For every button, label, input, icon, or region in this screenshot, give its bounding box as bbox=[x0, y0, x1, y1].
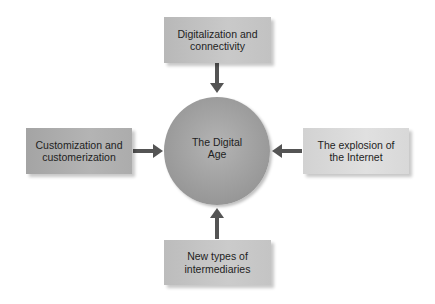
node-label: connectivity bbox=[178, 40, 258, 53]
arrow-right-icon bbox=[133, 144, 163, 158]
node-label: customerization bbox=[36, 151, 123, 164]
node-digitalization-connectivity: Digitalization and connectivity bbox=[164, 17, 271, 63]
node-label: intermediaries bbox=[185, 263, 251, 276]
node-label: the Internet bbox=[317, 151, 394, 164]
node-label: New types of bbox=[185, 250, 251, 263]
node-label: The explosion of bbox=[317, 139, 394, 152]
arrow-left-icon bbox=[272, 144, 302, 158]
node-label: Digitalization and bbox=[178, 28, 258, 41]
hub-label: The Digital bbox=[192, 136, 242, 149]
node-customization-customerization: Customization and customerization bbox=[26, 128, 132, 174]
hub-digital-age: The Digital Age bbox=[164, 97, 270, 205]
arrow-down-icon bbox=[210, 63, 224, 93]
node-new-intermediaries: New types of intermediaries bbox=[164, 240, 271, 285]
node-label: Customization and bbox=[36, 139, 123, 152]
node-explosion-of-internet: The explosion of the Internet bbox=[303, 128, 409, 174]
arrow-up-icon bbox=[210, 208, 224, 239]
hub-label: Age bbox=[192, 148, 242, 161]
